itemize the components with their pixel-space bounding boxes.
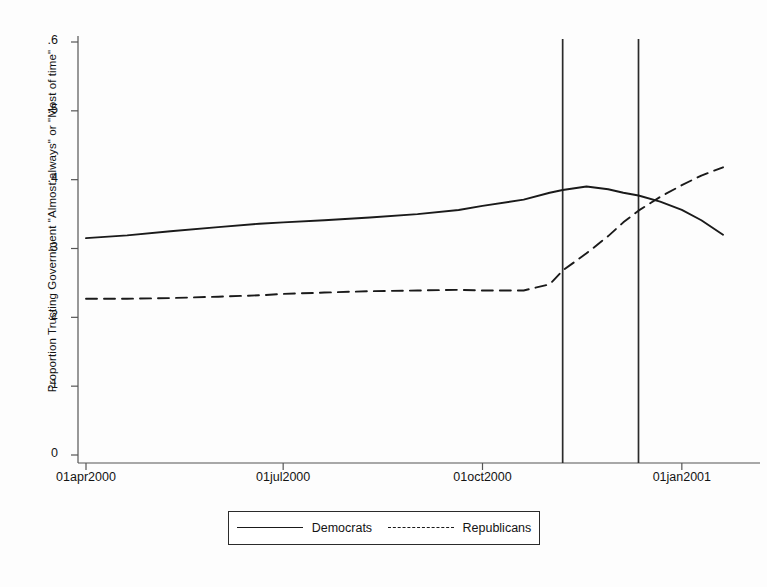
plot-area [0,0,767,587]
chart-legend: Democrats Republicans [228,511,540,545]
solid-line-swatch-icon [237,523,303,533]
legend-entry-republicans: Republicans [388,521,532,535]
legend-entry-democrats: Democrats [237,521,372,535]
series-line-republicans [86,167,723,298]
series-line-democrats [86,187,723,239]
legend-label-republicans: Republicans [463,521,532,535]
dashed-line-swatch-icon [388,523,454,533]
chart-figure: Proportion Trusting Government "Almost a… [0,0,767,587]
legend-label-democrats: Democrats [312,521,372,535]
